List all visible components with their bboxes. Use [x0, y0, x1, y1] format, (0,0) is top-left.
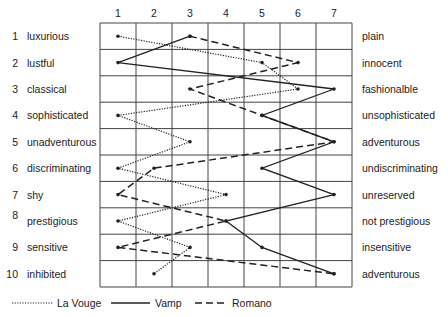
- row-number: 6: [12, 162, 18, 174]
- x-tick-label: 1: [115, 7, 121, 19]
- data-point: [224, 193, 228, 197]
- data-point: [152, 166, 156, 170]
- data-point: [116, 219, 120, 223]
- row-number: 2: [12, 57, 18, 69]
- row-number: 5: [12, 136, 18, 148]
- data-point: [224, 219, 228, 223]
- data-point: [188, 140, 192, 144]
- data-point: [116, 166, 120, 170]
- data-point: [260, 61, 264, 65]
- data-point: [116, 114, 120, 118]
- row-right-label: not prestigious: [362, 215, 430, 227]
- data-point: [152, 272, 156, 276]
- data-point: [116, 246, 120, 250]
- x-tick-label: 6: [295, 7, 301, 19]
- row-right-label: unsophisticated: [362, 109, 435, 121]
- x-axis-ticks: 1234567: [115, 7, 337, 19]
- legend-label: La Vouge: [57, 297, 102, 309]
- row-left-label: unadventurous: [27, 136, 96, 148]
- data-point: [332, 193, 336, 197]
- legend-label: Vamp: [155, 297, 182, 309]
- row-number: 3: [12, 83, 18, 95]
- row-right-label: innocent: [362, 57, 402, 69]
- row-left-label: lustful: [27, 57, 54, 69]
- data-point: [116, 34, 120, 38]
- data-point: [260, 114, 264, 118]
- row-right-label: unreserved: [362, 189, 415, 201]
- row-left-label: sophisticated: [27, 109, 88, 121]
- data-point: [296, 87, 300, 91]
- row-left-label: shy: [27, 189, 44, 201]
- semantic-differential-chart: 1234567 1luxuriousplain2lustfulinnocent3…: [0, 0, 448, 317]
- data-point: [260, 246, 264, 250]
- legend-label: Romano: [232, 297, 272, 309]
- data-point: [188, 246, 192, 250]
- row-number: 7: [12, 189, 18, 201]
- data-point: [188, 87, 192, 91]
- x-tick-label: 2: [151, 7, 157, 19]
- row-left-label: inhibited: [27, 268, 66, 280]
- data-point: [260, 166, 264, 170]
- row-right-label: plain: [362, 30, 384, 42]
- data-point: [332, 87, 336, 91]
- row-left-label: discriminating: [27, 162, 91, 174]
- row-right-label: adventurous: [362, 136, 420, 148]
- row-right-label: insensitive: [362, 241, 411, 253]
- row-left-label: classical: [27, 83, 67, 95]
- row-number: 4: [12, 109, 18, 121]
- row-number: 9: [12, 241, 18, 253]
- data-point: [188, 34, 192, 38]
- legend: La VougeVampRomano: [12, 297, 272, 309]
- chart-grid: [100, 23, 352, 287]
- x-tick-label: 7: [331, 7, 337, 19]
- row-left-label: sensitive: [27, 241, 68, 253]
- data-point: [116, 193, 120, 197]
- data-point: [332, 140, 336, 144]
- row-number: 8: [12, 209, 18, 221]
- row-right-label: fashionalble: [362, 83, 418, 95]
- row-number: 10: [6, 268, 18, 280]
- row-left-label: prestigious: [27, 215, 78, 227]
- row-number: 1: [12, 30, 18, 42]
- x-tick-label: 4: [223, 7, 229, 19]
- x-tick-label: 3: [187, 7, 193, 19]
- data-point: [116, 61, 120, 65]
- data-point: [296, 61, 300, 65]
- row-right-label: adventurous: [362, 268, 420, 280]
- row-right-label: undiscriminating: [362, 162, 438, 174]
- data-point: [332, 272, 336, 276]
- row-left-label: luxurious: [27, 30, 69, 42]
- x-tick-label: 5: [259, 7, 265, 19]
